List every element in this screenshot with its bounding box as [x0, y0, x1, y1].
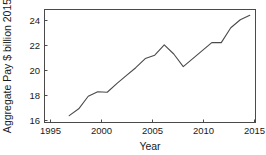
y-tick-label-16: 16: [29, 115, 40, 126]
x-tick-label-2015: 2015: [244, 125, 265, 136]
chart-figure: 24 22 20 18 16 1995 2000 2005 2010 2015 …: [0, 0, 266, 155]
y-axis-title: Aggregate Pay $ billion 2015: [1, 0, 13, 133]
line-chart: 24 22 20 18 16 1995 2000 2005 2010 2015 …: [0, 0, 266, 155]
x-axis-title: Year: [139, 140, 161, 152]
y-tick-label-18: 18: [29, 90, 40, 101]
x-tick-label-2005: 2005: [142, 125, 163, 136]
y-tick-label-22: 22: [29, 40, 40, 51]
plot-frame: [45, 10, 256, 123]
x-tick-label-2010: 2010: [193, 125, 214, 136]
y-tick-label-20: 20: [29, 65, 40, 76]
y-tick-label-24: 24: [29, 15, 40, 26]
data-series-aggregate-pay: [69, 15, 250, 115]
x-tick-label-1995: 1995: [40, 125, 61, 136]
x-tick-label-2000: 2000: [91, 125, 112, 136]
